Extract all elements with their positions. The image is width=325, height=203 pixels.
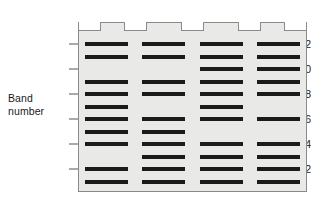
- band-lane-b-4: [142, 142, 185, 146]
- band-lane-b-6: [142, 117, 185, 121]
- axis-tick-mark: [69, 44, 78, 45]
- band-lane-a-1: [85, 180, 128, 184]
- band-lane-a-5: [85, 130, 128, 134]
- band-lane-b-3: [142, 155, 185, 159]
- band-lane-d-4: [257, 142, 300, 146]
- well-notch: [124, 22, 147, 31]
- well-notch: [181, 22, 204, 31]
- band-lane-d-11: [257, 55, 300, 59]
- band-lane-a-2: [85, 167, 128, 171]
- band-lane-d-12: [257, 42, 300, 46]
- band-lane-d-9: [257, 80, 300, 84]
- well-notch: [78, 22, 101, 31]
- band-lane-c-11: [200, 55, 243, 59]
- axis-tick-mark: [69, 169, 78, 170]
- band-lane-c-12: [200, 42, 243, 46]
- band-lane-a-4: [85, 142, 128, 146]
- band-lane-d-2: [257, 167, 300, 171]
- band-lane-c-4: [200, 142, 243, 146]
- axis-tick-mark: [69, 69, 78, 70]
- band-lane-c-7: [200, 105, 243, 109]
- axis-tick-mark: [69, 119, 78, 120]
- band-lane-b-1: [142, 180, 185, 184]
- band-lane-d-8: [257, 92, 300, 96]
- band-lane-a-9: [85, 80, 128, 84]
- band-lane-d-10: [257, 67, 300, 71]
- band-lane-d-3: [257, 155, 300, 159]
- band-lane-a-8: [85, 92, 128, 96]
- band-lane-a-11: [85, 55, 128, 59]
- band-lane-a-12: [85, 42, 128, 46]
- band-lane-b-2: [142, 167, 185, 171]
- well-notch: [284, 22, 307, 31]
- band-lane-b-8: [142, 92, 185, 96]
- band-lane-b-11: [142, 55, 185, 59]
- band-lane-c-8: [200, 92, 243, 96]
- band-lane-a-6: [85, 117, 128, 121]
- band-lane-b-5: [142, 130, 185, 134]
- gel-diagram: Band number 12108642: [0, 0, 325, 203]
- well-notch: [238, 22, 261, 31]
- band-lane-b-12: [142, 42, 185, 46]
- axis-tick-mark: [69, 144, 78, 145]
- band-lane-a-7: [85, 105, 128, 109]
- band-lane-d-1: [257, 180, 300, 184]
- band-lane-b-9: [142, 80, 185, 84]
- band-lane-c-6: [200, 117, 243, 121]
- band-lane-c-3: [200, 155, 243, 159]
- axis-tick-mark: [69, 94, 78, 95]
- band-lane-c-10: [200, 67, 243, 71]
- band-lane-c-1: [200, 180, 243, 184]
- band-lane-c-9: [200, 80, 243, 84]
- band-lane-c-2: [200, 167, 243, 171]
- band-lane-d-6: [257, 117, 300, 121]
